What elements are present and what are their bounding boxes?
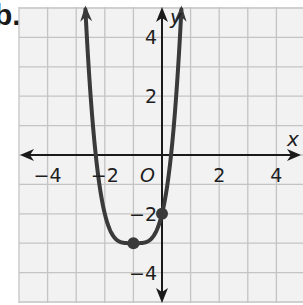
y-tick-label: 4	[145, 26, 157, 48]
y-tick-label: −4	[129, 262, 157, 284]
key-point-marker	[127, 237, 139, 249]
key-point-marker	[156, 208, 168, 220]
y-tick-label: 2	[145, 85, 157, 107]
y-tick-label: −2	[129, 203, 157, 225]
x-axis-label: x	[286, 127, 299, 151]
x-tick-label: −4	[34, 164, 62, 186]
x-tick-label: −2	[91, 164, 119, 186]
coordinate-plane: −4−22442−2−4 O x y	[0, 0, 303, 305]
origin-label: O	[140, 164, 155, 186]
x-tick-label: 4	[270, 164, 282, 186]
x-tick-label: 2	[213, 164, 225, 186]
y-axis-label: y	[169, 5, 183, 29]
